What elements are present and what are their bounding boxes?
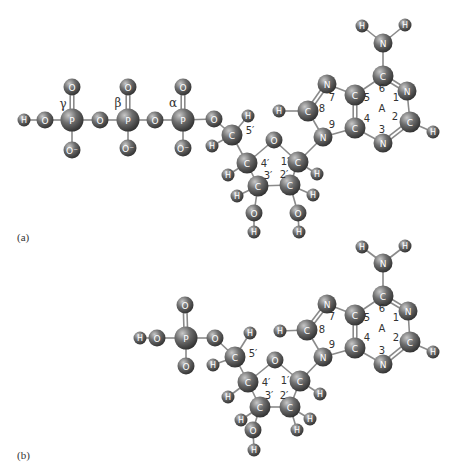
atom-o: O xyxy=(120,79,137,96)
atoms-layer-b: HOPOOOCHHOCHCHCHCHHOHNCHNCCNCHNCNHH xyxy=(134,240,440,457)
panel-a: HOPOO⁻OPOO⁻OPOO⁻OCHHOCHCHCHCHOHOHNCHNCCN… xyxy=(17,19,440,245)
atom-symbol: O xyxy=(250,209,257,219)
molecule-diagram: HOPOO⁻OPOO⁻OPOO⁻OCHHOCHCHCHCHOHOHNCHNCCN… xyxy=(0,0,458,474)
phosphate-greek-label: γ xyxy=(59,97,66,111)
atom-h: H xyxy=(242,110,255,123)
atom-symbol: N xyxy=(380,139,387,149)
atom-symbol: O xyxy=(249,426,256,436)
position-number: 2′ xyxy=(280,169,289,180)
atom-symbol: O xyxy=(181,301,188,311)
atom-c: C xyxy=(345,305,366,326)
position-number: 8 xyxy=(319,324,325,335)
atom-o: O xyxy=(207,330,224,347)
atom-o-minus: O⁻ xyxy=(175,140,192,157)
atom-symbol: O xyxy=(151,116,158,126)
atom-symbol: C xyxy=(297,377,303,387)
atom-c: C xyxy=(238,372,259,393)
atom-symbol: H xyxy=(225,171,231,180)
position-number: 5 xyxy=(364,312,370,323)
atom-symbol: O xyxy=(211,334,218,344)
atom-symbol: H xyxy=(294,426,300,435)
atom-h: H xyxy=(207,359,220,372)
atom-n: N xyxy=(374,134,393,153)
atom-symbol: O xyxy=(270,136,277,146)
atom-o: O xyxy=(266,132,283,149)
atom-c: C xyxy=(298,101,319,122)
atom-symbol: H xyxy=(317,390,323,399)
atom-n: N xyxy=(314,348,333,367)
atom-h: H xyxy=(231,190,244,203)
position-number: 1 xyxy=(393,92,399,103)
atom-symbol: C xyxy=(244,159,250,169)
atom-symbol: H xyxy=(296,228,302,237)
atom-symbol: N xyxy=(380,360,387,370)
atom-c: C xyxy=(288,152,309,173)
atom-symbol: C xyxy=(352,91,358,101)
atom-n: N xyxy=(374,355,393,374)
atom-h: H xyxy=(244,327,257,340)
atom-symbol: C xyxy=(380,292,386,302)
atom-p: P xyxy=(172,109,195,132)
position-number: A xyxy=(379,323,386,334)
atom-symbol: H xyxy=(238,416,244,425)
atom-c: C xyxy=(222,125,243,146)
atom-symbol: O⁻ xyxy=(177,144,189,154)
atom-o: O xyxy=(149,330,166,347)
atom-symbol: H xyxy=(210,361,216,370)
atom-c: C xyxy=(290,371,311,392)
atom-o: O xyxy=(64,79,81,96)
atom-symbol: O xyxy=(68,83,75,93)
atom-symbol: C xyxy=(255,182,261,192)
atom-symbol: O xyxy=(153,334,160,344)
panel-label-a: (a) xyxy=(17,231,30,244)
atom-symbol: N xyxy=(320,133,327,143)
atom-h: H xyxy=(311,168,324,181)
atom-h: H xyxy=(356,241,369,254)
atom-c: C xyxy=(345,118,366,139)
atom-symbol: N xyxy=(320,353,327,363)
atom-symbol: N xyxy=(324,300,331,310)
atom-h: H xyxy=(399,19,412,32)
atom-symbol: C xyxy=(380,72,386,82)
atom-h: H xyxy=(304,413,317,426)
atom-symbol: O⁻ xyxy=(122,144,134,154)
panel-b: HOPOOOCHHOCHCHCHCHHOHNCHNCCNCHNCNHH 5′4′… xyxy=(17,240,440,463)
atom-h: H xyxy=(427,126,440,139)
atom-symbol: O xyxy=(294,209,301,219)
atom-symbol: O xyxy=(96,116,103,126)
atom-c: C xyxy=(225,347,246,368)
atom-symbol: C xyxy=(407,118,413,128)
position-number: 2 xyxy=(393,332,399,343)
atom-symbol: N xyxy=(380,259,387,269)
atom-symbol: H xyxy=(225,393,231,402)
atom-h: H xyxy=(291,424,304,437)
position-number: 3 xyxy=(379,124,385,135)
atom-h: H xyxy=(248,226,261,239)
position-number: 1′ xyxy=(281,375,290,386)
atom-o: O xyxy=(267,352,284,369)
position-number: 7 xyxy=(329,311,335,322)
position-number: 5′ xyxy=(246,125,255,136)
atom-c: C xyxy=(400,332,421,353)
atom-symbol: C xyxy=(287,403,293,413)
atom-symbol: H xyxy=(310,191,316,200)
atom-symbol: P xyxy=(180,116,186,126)
atom-n: N xyxy=(398,82,417,101)
atom-h: H xyxy=(307,189,320,202)
atom-symbol: H xyxy=(137,334,143,343)
atom-o-minus: O⁻ xyxy=(120,140,137,157)
position-number: 3 xyxy=(379,345,385,356)
atom-symbol: H xyxy=(314,170,320,179)
atom-n: N xyxy=(374,34,393,53)
atom-o: O xyxy=(246,205,263,222)
atom-symbol: N xyxy=(405,307,412,317)
phosphate-greek-label: β xyxy=(115,96,122,110)
atom-symbol: O⁻ xyxy=(66,146,78,156)
atom-symbol: H xyxy=(276,107,282,116)
position-number: 6 xyxy=(379,83,385,94)
atoms-layer-a: HOPOO⁻OPOO⁻OPOO⁻OCHHOCHCHCHCHOHOHNCHNCCN… xyxy=(18,19,440,239)
atom-symbol: H xyxy=(209,142,215,151)
atom-symbol: C xyxy=(352,344,358,354)
position-number: 6 xyxy=(379,303,385,314)
atom-symbol: C xyxy=(407,338,413,348)
